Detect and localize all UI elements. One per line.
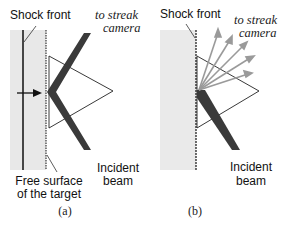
incident-beam-label-b-line2: beam (226, 175, 276, 188)
incident-beam-label-a-line2: beam (93, 175, 143, 188)
shock-front-label-b: Shock front (160, 8, 221, 21)
incident-beam-label-b-line1: Incident (226, 161, 276, 174)
caption-a: (a) (50, 205, 80, 218)
camera-label-b-line2: camera (239, 27, 277, 40)
incident-beam-a (47, 33, 91, 150)
free-surface-label-line2: of the target (12, 188, 86, 201)
panel-b (160, 24, 259, 170)
shock-front-label-a: Shock front (10, 9, 71, 22)
target-slab-a (10, 30, 46, 170)
beam-cone-a (49, 56, 113, 128)
caption-b: (b) (180, 205, 210, 218)
free-surface-leader-a (47, 155, 57, 172)
target-slab-b (160, 30, 196, 170)
camera-label-a-line2: camera (103, 22, 141, 35)
incident-beam-b (197, 90, 240, 150)
panel-a (10, 26, 113, 172)
